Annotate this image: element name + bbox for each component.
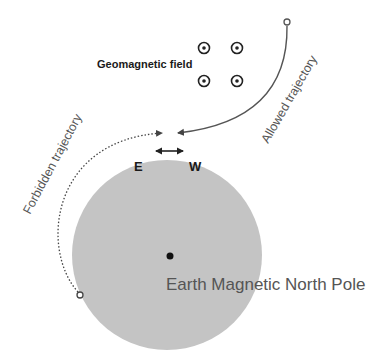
pole-label: Earth Magnetic North Pole [166, 275, 365, 294]
field-out-of-page-icon [199, 76, 210, 87]
west-label: W [189, 159, 202, 174]
geomagnetic-diagram: Earth Magnetic North Pole Geomagnetic fi… [0, 0, 370, 364]
forbidden-trajectory-label: Forbidden trajectory [20, 111, 85, 216]
field-out-of-page-icon [232, 43, 243, 54]
field-out-of-page-icon [232, 76, 243, 87]
east-label: E [134, 159, 143, 174]
allowed-trajectory-start-icon [284, 19, 290, 25]
pole-dot [167, 253, 174, 260]
field-out-of-page-icon [199, 43, 210, 54]
allowed-trajectory-label: Allowed trajectory [258, 52, 320, 145]
forbidden-trajectory-start-icon [77, 292, 83, 298]
geomagnetic-field-label: Geomagnetic field [97, 58, 192, 70]
